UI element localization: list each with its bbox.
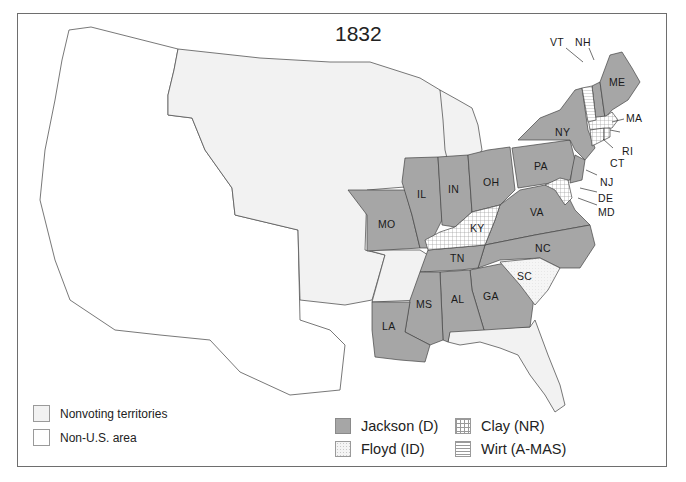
legend-label: Wirt (A-MAS) — [481, 441, 566, 457]
label-al: AL — [451, 293, 464, 305]
label-tn: TN — [450, 252, 465, 264]
label-il: IL — [417, 188, 426, 200]
label-la: LA — [382, 320, 395, 332]
label-ri: RI — [622, 145, 633, 157]
legend-label: Non-U.S. area — [60, 431, 137, 445]
solid-gray-swatch-icon — [335, 418, 351, 434]
label-nc: NC — [535, 242, 551, 254]
state-rhode-island — [604, 128, 610, 140]
label-sc: SC — [517, 270, 532, 282]
legend-floyd: Floyd (ID) — [335, 441, 425, 457]
legend-nonvoting-territories: Nonvoting territories — [33, 405, 167, 422]
legend-label: Jackson (D) — [361, 418, 438, 434]
grid-pattern-swatch-icon — [455, 418, 471, 434]
legend-label: Clay (NR) — [481, 418, 545, 434]
horizontal-lines-swatch-icon — [455, 441, 471, 457]
label-oh: OH — [483, 176, 499, 188]
label-pa: PA — [534, 160, 548, 172]
dotted-pattern-swatch-icon — [335, 441, 351, 457]
label-ky: KY — [470, 222, 485, 234]
legend-non-us-area: Non-U.S. area — [33, 429, 137, 446]
map-title: 1832 — [335, 22, 382, 46]
label-nj: NJ — [600, 176, 613, 188]
label-in: IN — [448, 183, 459, 195]
label-vt: VT — [550, 36, 564, 48]
label-me: ME — [609, 76, 625, 88]
label-ms: MS — [416, 298, 432, 310]
label-ct: CT — [610, 157, 625, 169]
legend-jackson: Jackson (D) — [335, 418, 438, 434]
non-us-swatch-icon — [33, 429, 50, 446]
label-nh: NH — [575, 36, 591, 48]
label-md: MD — [598, 206, 615, 218]
label-ma: MA — [626, 112, 642, 124]
florida-territory — [448, 320, 565, 412]
territory-swatch-icon — [33, 405, 50, 422]
legend-clay: Clay (NR) — [455, 418, 545, 434]
label-ny: NY — [555, 126, 570, 138]
state-connecticut — [590, 128, 604, 146]
label-va: VA — [530, 206, 544, 218]
label-de: DE — [598, 192, 613, 204]
legend-wirt: Wirt (A-MAS) — [455, 441, 566, 457]
legend-label: Floyd (ID) — [361, 441, 425, 457]
label-ga: GA — [483, 290, 499, 302]
legend-label: Nonvoting territories — [60, 407, 167, 421]
label-mo: MO — [378, 218, 396, 230]
